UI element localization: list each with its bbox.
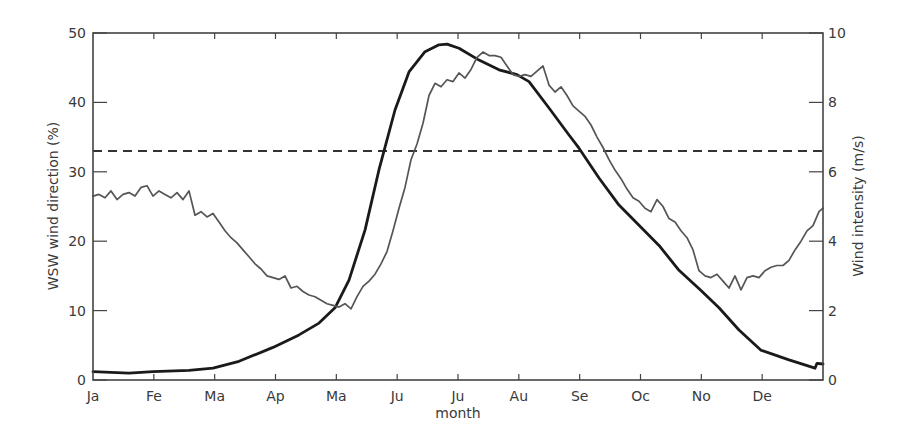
x-tick-label: Fe bbox=[146, 388, 162, 404]
y-tick-label: 40 bbox=[68, 94, 86, 110]
y2-tick-label: 10 bbox=[828, 25, 846, 41]
y2-tick-label: 8 bbox=[828, 94, 837, 110]
y2-tick-label: 0 bbox=[828, 372, 837, 388]
x-tick-label: Au bbox=[510, 388, 528, 404]
y-tick-label: 0 bbox=[77, 372, 86, 388]
wind-direction-line bbox=[93, 44, 823, 373]
plot-frame bbox=[93, 33, 823, 380]
y-tick-label: 20 bbox=[68, 233, 86, 249]
x-tick-label: Ma bbox=[204, 388, 225, 404]
x-tick-label: De bbox=[752, 388, 771, 404]
y2-axis-ticks: 0246810 bbox=[809, 25, 846, 388]
y2-tick-label: 4 bbox=[828, 233, 837, 249]
y2-axis-title: Wind intensity (m/s) bbox=[850, 135, 866, 276]
y-tick-label: 30 bbox=[68, 164, 86, 180]
chart: JaFeMaApMaJuJuAuSeOcNoDe 01020304050 024… bbox=[0, 0, 908, 442]
x-tick-label: No bbox=[692, 388, 711, 404]
x-tick-label: Ap bbox=[266, 388, 285, 404]
axes bbox=[93, 33, 823, 380]
y2-tick-label: 6 bbox=[828, 164, 837, 180]
x-tick-label: Ju bbox=[390, 388, 404, 404]
y2-tick-label: 2 bbox=[828, 303, 837, 319]
x-axis-title: month bbox=[435, 405, 480, 421]
x-tick-label: Oc bbox=[631, 388, 650, 404]
x-tick-label: Ju bbox=[450, 388, 464, 404]
series-layer bbox=[93, 44, 823, 373]
wind-intensity-line bbox=[93, 52, 823, 309]
x-tick-label: Ma bbox=[326, 388, 347, 404]
y-tick-label: 50 bbox=[68, 25, 86, 41]
x-tick-label: Ja bbox=[86, 388, 100, 404]
x-tick-label: Se bbox=[571, 388, 589, 404]
y-axis-title: WSW wind direction (%) bbox=[45, 122, 61, 291]
y-tick-label: 10 bbox=[68, 303, 86, 319]
y-axis-ticks: 01020304050 bbox=[68, 25, 107, 388]
